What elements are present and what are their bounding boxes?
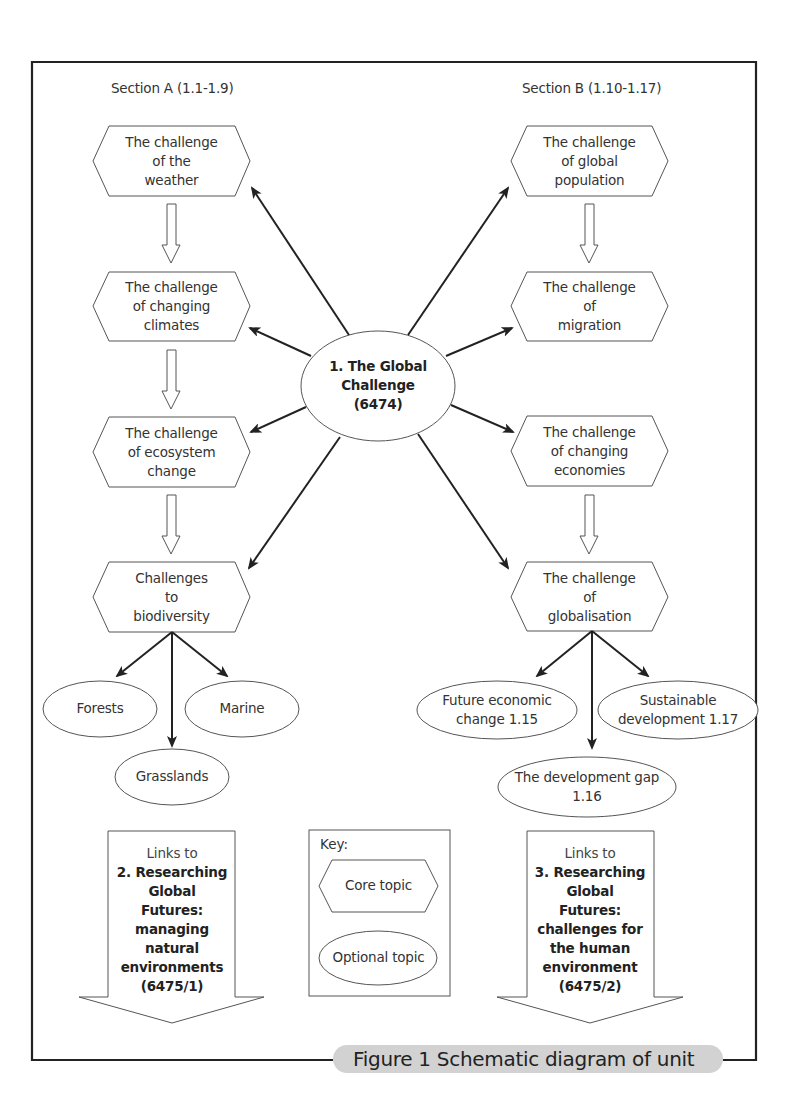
down-arrow-icon (162, 204, 180, 263)
connector-arrow (408, 188, 508, 335)
connector-arrow (249, 437, 340, 568)
connector-arrow (418, 434, 508, 568)
topic-ecosystem: The challenge of ecosystem change (101, 424, 242, 481)
connector-arrow (451, 405, 513, 432)
optional-sustainable-development: Sustainable development 1.17 (600, 691, 756, 729)
topic-weather: The challenge of the weather (101, 133, 242, 190)
optional-marine: Marine (187, 699, 297, 718)
optional-forests: Forests (45, 699, 155, 718)
down-arrow-icon (162, 495, 180, 554)
connector-arrow (592, 631, 648, 676)
connector-arrow (250, 328, 311, 356)
figure-caption-text: Figure 1 Schematic diagram of unit (353, 1045, 694, 1073)
optional-grasslands: Grasslands (117, 767, 227, 786)
figure-caption: Figure 1 Schematic diagram of unit (333, 1045, 723, 1073)
connector-arrow (117, 632, 172, 676)
key-core-label: Core topic (319, 876, 438, 895)
topic-population: The challenge of global population (519, 133, 660, 190)
down-arrow-icon (580, 204, 598, 263)
link-right-text: Links to 3. Researching Global Futures: … (512, 844, 668, 996)
connector-arrow (537, 631, 592, 676)
connector-arrow (446, 328, 512, 356)
link-left-text: Links to 2. Researching Global Futures: … (94, 844, 250, 996)
connector-arrow (251, 407, 306, 432)
key-optional-label: Optional topic (319, 948, 438, 967)
topic-globalisation: The challenge of globalisation (519, 569, 660, 626)
connector-arrow (172, 632, 227, 676)
connector-arrow (252, 188, 349, 335)
topic-migration: The challenge of migration (519, 278, 660, 335)
optional-future-economic-change: Future economic change 1.15 (419, 691, 575, 729)
down-arrow-icon (162, 350, 180, 409)
section-a-label: Section A (1.1-1.9) (111, 80, 234, 96)
topic-economies: The challenge of changing economies (519, 423, 660, 480)
topic-biodiversity: Challenges to biodiversity (101, 569, 242, 626)
topic-climates: The challenge of changing climates (101, 278, 242, 335)
down-arrow-icon (580, 495, 598, 554)
center-topic-global-challenge: 1. The Global Challenge (6474) (308, 357, 448, 414)
key-title: Key: (320, 836, 348, 852)
optional-development-gap: The development gap 1.16 (500, 768, 674, 806)
section-b-label: Section B (1.10-1.17) (522, 80, 661, 96)
